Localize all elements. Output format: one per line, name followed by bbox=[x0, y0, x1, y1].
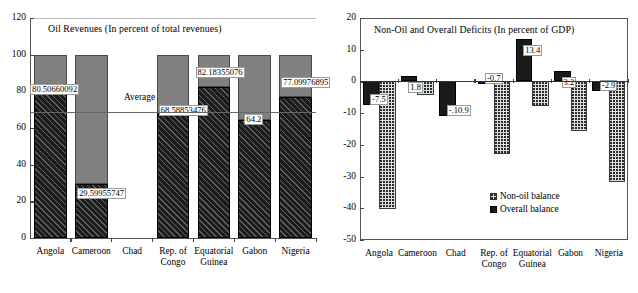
bar-segment-remainder bbox=[238, 55, 271, 121]
bar-value-label: 82.18355076 bbox=[196, 67, 245, 78]
category-label-line: Nigeria bbox=[575, 248, 638, 259]
right-y-tick-mark bbox=[360, 240, 364, 241]
bar-segment-remainder bbox=[157, 55, 190, 113]
bar-segment-oil-revenue bbox=[279, 97, 312, 238]
legend: Non-oil balanceOverall balance bbox=[490, 190, 560, 216]
bar-segment-oil-revenue bbox=[238, 120, 271, 238]
right-y-tick-label: -50 bbox=[343, 235, 356, 245]
category-label-line: Nigeria bbox=[262, 246, 330, 257]
bar-segment-oil-revenue bbox=[157, 112, 190, 238]
right-y-tick-label: -30 bbox=[343, 172, 356, 182]
right-y-tick-mark bbox=[360, 18, 364, 19]
bar-value-label: 1.8 bbox=[408, 82, 423, 93]
bar-value-label: 64.2 bbox=[244, 114, 263, 125]
left-y-tick-label: 100 bbox=[12, 50, 26, 60]
legend-item: Overall balance bbox=[490, 203, 560, 216]
bar-value-label: 29.59955747 bbox=[77, 188, 126, 199]
bar-value-label: -7.5 bbox=[370, 94, 388, 105]
bar-segment-remainder bbox=[279, 55, 312, 97]
bar-non-oil-balance bbox=[571, 81, 587, 131]
legend-swatch-overall-icon bbox=[490, 206, 497, 213]
right-y-tick-label: -10 bbox=[343, 108, 356, 118]
right-y-tick-label: -40 bbox=[343, 204, 356, 214]
right-y-tick-mark bbox=[360, 145, 364, 146]
left-y-tick-label: 120 bbox=[12, 13, 26, 23]
right-y-tick-mark bbox=[360, 50, 364, 51]
left-x-tick-mark bbox=[111, 238, 112, 242]
legend-label: Non-oil balance bbox=[500, 190, 560, 203]
figure-container: Oil Revenues (In percent of total revenu… bbox=[0, 0, 638, 293]
right-y-tick-mark bbox=[360, 177, 364, 178]
average-line bbox=[30, 112, 316, 113]
deficits-chart: Non-Oil and Overall Deficits (In percent… bbox=[330, 0, 638, 293]
bar-non-oil-balance bbox=[494, 81, 510, 153]
left-x-tick-mark bbox=[234, 238, 235, 242]
category-label: Nigeria bbox=[575, 248, 638, 259]
bar-value-label: 3.2 bbox=[562, 77, 577, 88]
right-y-tick-mark bbox=[360, 113, 364, 114]
bar-value-label: 13.4 bbox=[523, 45, 542, 56]
left-y-tick-label: 60 bbox=[17, 123, 27, 133]
average-label: Average bbox=[122, 92, 157, 102]
right-y-tick-mark bbox=[360, 208, 364, 209]
right-y-tick-label: 0 bbox=[351, 77, 356, 87]
legend-label: Overall balance bbox=[500, 203, 559, 216]
legend-swatch-non-oil-icon bbox=[490, 193, 497, 200]
left-x-axis bbox=[30, 238, 316, 239]
bar-value-label: 68.58853476 bbox=[159, 105, 208, 116]
bar-segment-remainder bbox=[75, 55, 108, 184]
left-x-tick-mark bbox=[70, 238, 71, 242]
bar-value-label: 80.50660092 bbox=[30, 84, 79, 95]
left-y-tick-label: 80 bbox=[17, 87, 27, 97]
left-x-tick-mark bbox=[275, 238, 276, 242]
left-y-tick-label: 40 bbox=[17, 160, 27, 170]
oil-revenues-chart: Oil Revenues (In percent of total revenu… bbox=[0, 0, 320, 293]
left-y-tick-mark bbox=[30, 18, 34, 19]
left-x-tick-mark bbox=[152, 238, 153, 242]
left-y-tick-mark bbox=[30, 238, 34, 239]
left-y-tick-label: 20 bbox=[17, 197, 27, 207]
bar-non-oil-balance bbox=[609, 81, 625, 182]
bar-non-oil-balance bbox=[532, 81, 548, 105]
right-y-tick-label: 20 bbox=[347, 13, 357, 23]
category-label-line: Guinea bbox=[498, 259, 566, 270]
category-label-line: Guinea bbox=[180, 257, 248, 268]
right-y-tick-label: 10 bbox=[347, 45, 357, 55]
right-y-tick-label: -20 bbox=[343, 140, 356, 150]
bar-value-label: 77.09976895 bbox=[281, 77, 330, 88]
legend-item: Non-oil balance bbox=[490, 190, 560, 203]
left-y-tick-label: 0 bbox=[21, 233, 26, 243]
bar-value-label: -.10.9 bbox=[447, 105, 471, 116]
category-label: Nigeria bbox=[262, 246, 330, 257]
left-x-tick-mark bbox=[193, 238, 194, 242]
left-x-tick-mark bbox=[316, 238, 317, 242]
zero-line bbox=[360, 81, 628, 82]
